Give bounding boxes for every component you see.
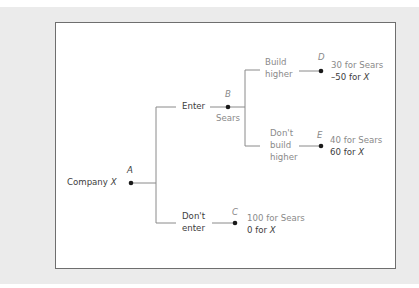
payoff-d-x: –50 for X: [331, 72, 369, 84]
node-b-label: B: [225, 89, 231, 101]
company-text: Company: [67, 177, 108, 187]
node-c-dot: [233, 221, 238, 226]
node-a-dot: [129, 181, 134, 186]
move-dont-enter-line2: enter: [182, 223, 205, 235]
payoff-c-x-value: 0 for: [247, 225, 267, 235]
payoff-e-x-value: 60 for: [330, 147, 355, 157]
node-a-label: A: [127, 165, 133, 177]
company-var: X: [111, 177, 117, 187]
payoff-e-sears: 40 for Sears: [330, 135, 382, 147]
move-dont-build-line3: higher: [270, 152, 298, 164]
payoff-e-x-var: X: [358, 147, 364, 157]
node-c-label: C: [232, 207, 238, 219]
payoff-d-sears: 30 for Sears: [331, 60, 383, 72]
move-dont-enter-line1: Don't: [182, 211, 205, 223]
node-b-player: Sears: [216, 113, 240, 125]
payoff-e-x: 60 for X: [330, 147, 364, 159]
node-d-dot: [319, 69, 324, 74]
move-build-higher-line2: higher: [265, 69, 293, 81]
payoff-c-x-var: X: [270, 225, 276, 235]
node-d-label: D: [318, 52, 325, 64]
move-dont-build-line1: Don't: [270, 128, 293, 140]
node-e-label: E: [317, 130, 322, 142]
move-dont-build-line2: build: [270, 140, 291, 152]
payoff-c-sears: 100 for Sears: [247, 213, 305, 225]
node-e-dot: [319, 144, 324, 149]
payoff-d-x-var: X: [364, 72, 370, 82]
root-player-label: Company X: [67, 177, 117, 189]
node-b-dot: [226, 105, 231, 110]
move-build-higher-line1: Build: [265, 57, 287, 69]
payoff-c-x: 0 for X: [247, 225, 276, 237]
payoff-d-x-value: –50 for: [331, 72, 361, 82]
move-enter: Enter: [182, 101, 205, 113]
